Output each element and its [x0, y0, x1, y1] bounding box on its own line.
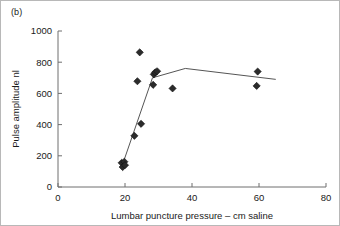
figure-panel: (b) 020406080 02004006008001000 Lumbar p…: [0, 0, 340, 226]
y-tick-label: 0: [47, 181, 52, 192]
x-tick-labels: 020406080: [55, 192, 331, 203]
data-point: [137, 120, 144, 127]
data-point: [253, 82, 260, 89]
x-tick-label: 40: [187, 192, 198, 203]
y-tick-label: 400: [36, 119, 52, 130]
data-point: [136, 49, 143, 56]
y-tick-label: 1000: [31, 25, 52, 36]
fit-line: [122, 68, 275, 165]
x-tick-label: 20: [120, 192, 131, 203]
scatter-chart: 020406080 02004006008001000 Lumbar punct…: [1, 1, 340, 226]
y-tick-label: 800: [36, 57, 52, 68]
tick-marks: [58, 31, 326, 187]
x-tick-label: 80: [321, 192, 332, 203]
data-point: [254, 68, 261, 75]
y-tick-label: 600: [36, 88, 52, 99]
y-tick-labels: 02004006008001000: [31, 25, 52, 192]
x-tick-label: 60: [254, 192, 265, 203]
x-tick-label: 0: [55, 192, 60, 203]
y-axis-title: Pulse amplitude nl: [10, 70, 21, 148]
data-point: [169, 85, 176, 92]
data-points: [118, 49, 261, 171]
data-point: [134, 78, 141, 85]
x-axis-title: Lumbar puncture pressure – cm saline: [111, 210, 273, 221]
axes: [58, 31, 326, 187]
y-tick-label: 200: [36, 150, 52, 161]
